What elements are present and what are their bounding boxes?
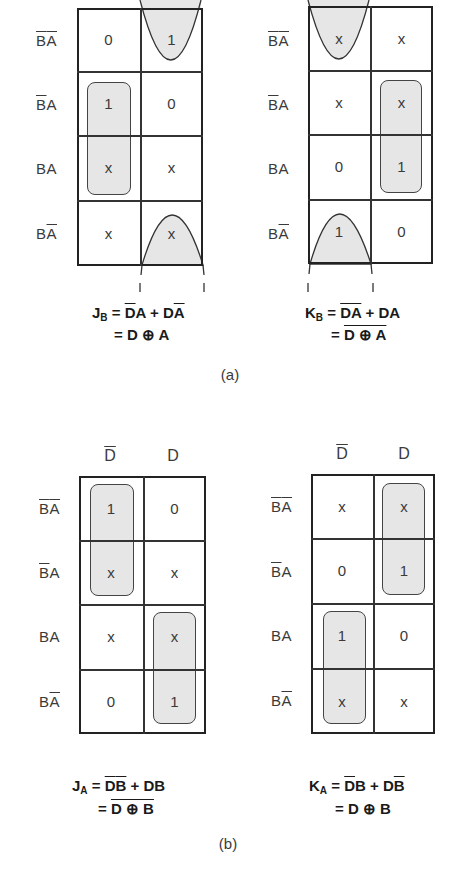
row-label-b-a: BA — [271, 627, 311, 644]
row-label-b-abar: BA — [39, 693, 79, 710]
row-label-bbar-a: BA — [268, 96, 308, 113]
row-label-b-a: BA — [268, 160, 308, 177]
cell: 0 — [143, 476, 206, 540]
col-label-d: D — [163, 447, 183, 465]
cell: x — [370, 6, 433, 70]
cell: x — [308, 70, 370, 134]
equation-kb-line2: = D ⊕ A — [331, 326, 386, 344]
row-label-b-a: BA — [39, 628, 79, 645]
row-label-bbar-abar: BA — [39, 500, 79, 517]
cell: 0 — [373, 603, 435, 668]
caption-a: (a) — [210, 366, 250, 383]
equation-kb-line1: KB = DA + DA — [305, 304, 400, 323]
equation-jb-line2: = D ⊕ A — [114, 326, 169, 344]
cell: 0 — [79, 669, 143, 734]
cell: 1 — [143, 669, 206, 734]
equation-ja-line1: JA = DB + DB — [72, 777, 165, 796]
cell: 0 — [308, 134, 370, 199]
cell: x — [143, 604, 206, 669]
row-label-bbar-a: BA — [39, 564, 79, 581]
cell: 1 — [308, 199, 370, 264]
row-label-b-abar: BA — [271, 692, 311, 709]
col-label-dbar: D — [332, 445, 352, 463]
cell: x — [308, 6, 370, 70]
cell: 1 — [79, 476, 143, 540]
col-label-d: D — [394, 445, 414, 463]
equation-ka-line1: KA = DB + DB — [309, 777, 405, 796]
caption-b: (b) — [208, 835, 248, 852]
cell: x — [311, 668, 373, 734]
equation-ja-line2: = D ⊕ B — [98, 800, 154, 818]
col-label-dbar: D — [100, 447, 120, 465]
row-label-b-abar: BA — [268, 225, 308, 242]
cell: 0 — [311, 538, 373, 603]
cell: 0 — [370, 199, 433, 264]
cell: x — [370, 70, 433, 134]
equation-ka-line2: = D ⊕ B — [335, 800, 391, 818]
cell: x — [373, 474, 435, 538]
equation-jb-line1: JB = DA + DA — [92, 304, 185, 323]
cell: x — [79, 604, 143, 669]
cell: x — [143, 540, 206, 604]
cell: 1 — [373, 538, 435, 603]
cell: x — [311, 474, 373, 538]
cell: x — [373, 668, 435, 734]
row-label-bbar-abar: BA — [271, 498, 311, 515]
cell: x — [79, 540, 143, 604]
row-label-bbar-abar: BA — [268, 32, 308, 49]
row-label-bbar-a: BA — [271, 563, 311, 580]
cell: 1 — [370, 134, 433, 199]
cell: 1 — [311, 603, 373, 668]
